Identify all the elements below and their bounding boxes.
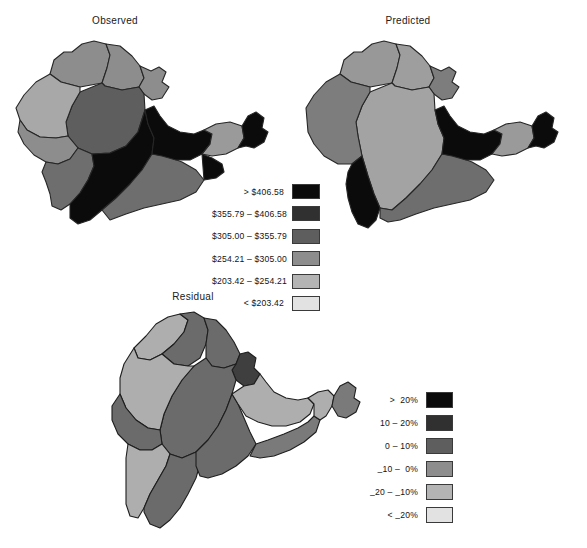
legend-label: 0 – 10% <box>352 441 426 451</box>
map-region <box>435 106 502 160</box>
legend-row: > 20% <box>352 390 453 409</box>
legend-swatch <box>426 484 453 500</box>
legend-residual: > 20% 10 – 20% 0 – 10% –10 – 0% –20 – –1… <box>352 390 453 529</box>
legend-swatch <box>426 461 453 477</box>
legend-row: –10 – 0% <box>352 460 453 479</box>
legend-row: < $203.42 <box>212 294 320 313</box>
legend-label: > 20% <box>352 395 426 405</box>
legend-swatch <box>426 415 453 431</box>
legend-label: –10 – 0% <box>352 464 426 474</box>
legend-label: $355.79 – $406.58 <box>212 209 292 219</box>
map-region <box>145 106 212 160</box>
legend-swatch <box>426 507 453 523</box>
legend-swatch <box>292 184 320 199</box>
legend-row: 10 – 20% <box>352 413 453 432</box>
legend-row: < –20% <box>352 506 453 525</box>
map-region <box>528 112 558 148</box>
legend-row: $305.00 – $355.79 <box>212 227 320 246</box>
legend-swatch <box>292 274 320 289</box>
legend-swatch <box>426 392 453 408</box>
legend-swatch <box>292 229 320 244</box>
map-region <box>238 112 268 148</box>
legend-label: $254.21 – $305.00 <box>212 254 292 264</box>
legend-label: $203.42 – $254.21 <box>212 276 292 286</box>
choropleth-map-residual <box>108 308 368 548</box>
choropleth-map-predicted <box>296 38 564 286</box>
legend-row: > $406.58 <box>212 182 320 201</box>
legend-row: $254.21 – $305.00 <box>212 249 320 268</box>
legend-label: 10 – 20% <box>352 418 426 428</box>
legend-currency: > $406.58 $355.79 – $406.58 $305.00 – $3… <box>212 182 320 316</box>
legend-row: $355.79 – $406.58 <box>212 204 320 223</box>
legend-row: 0 – 10% <box>352 436 453 455</box>
legend-swatch <box>292 296 320 311</box>
legend-label: < $203.42 <box>212 298 292 308</box>
legend-row: –20 – –10% <box>352 483 453 502</box>
legend-label: –20 – –10% <box>352 487 426 497</box>
figure-canvas: Observed Predicted Residual <box>0 0 587 548</box>
map-title-observed: Observed <box>60 15 170 26</box>
map-region <box>204 318 240 368</box>
legend-label: $305.00 – $355.79 <box>212 231 292 241</box>
legend-label: > $406.58 <box>212 187 292 197</box>
map-title-predicted: Predicted <box>353 15 463 26</box>
legend-swatch <box>292 251 320 266</box>
legend-swatch <box>292 206 320 221</box>
legend-swatch <box>426 438 453 454</box>
legend-row: $203.42 – $254.21 <box>212 272 320 291</box>
map-region <box>392 44 434 90</box>
map-region <box>102 44 144 90</box>
legend-label: < –20% <box>352 510 426 520</box>
